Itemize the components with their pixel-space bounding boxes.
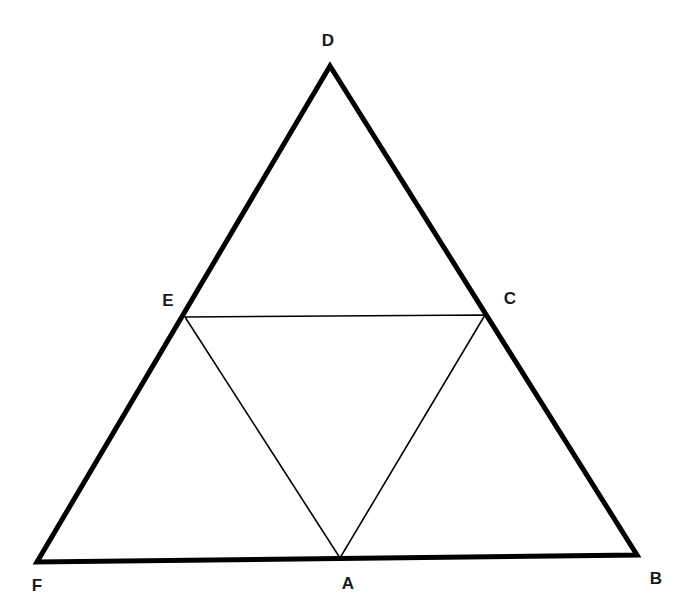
inner-triangle-ECA — [185, 315, 485, 558]
outer-triangle-DFB — [37, 66, 637, 562]
vertex-label-d: D — [322, 31, 334, 50]
vertex-label-f: F — [32, 576, 42, 595]
vertex-label-b: B — [650, 569, 662, 588]
vertex-label-c: C — [504, 289, 516, 308]
geometry-diagram: D E C F A B — [0, 0, 689, 616]
vertex-label-a: A — [342, 574, 354, 593]
vertex-label-e: E — [162, 291, 173, 310]
